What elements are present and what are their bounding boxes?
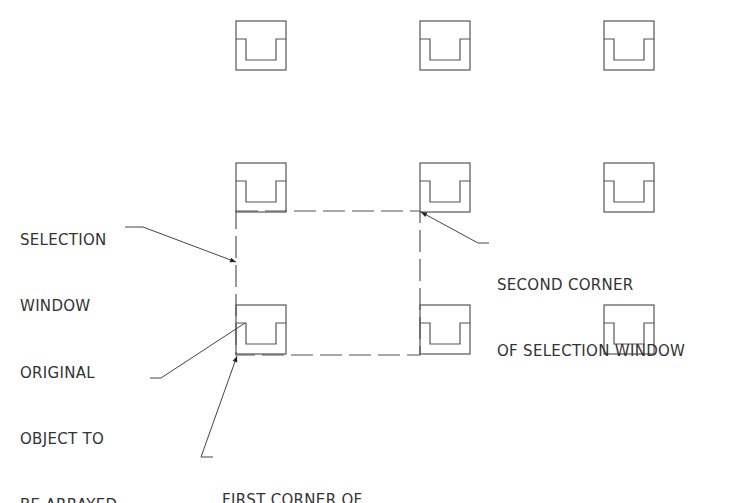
arrayed-object (236, 21, 286, 70)
label-line: WINDOW (20, 295, 107, 317)
arrayed-object (236, 163, 286, 212)
original-object-label: ORIGINAL OBJECT TO BE ARRAYED (20, 318, 117, 503)
selection-window-leader (125, 227, 236, 262)
label-line: FIRST CORNER OF (222, 489, 384, 503)
arrayed-object (604, 163, 654, 212)
second-corner-leader (421, 212, 489, 243)
label-line: OF SELECTION WINDOW (497, 340, 685, 362)
label-line: BE ARRAYED (20, 494, 117, 503)
first-corner-label: FIRST CORNER OF SELECTION WINDOW (222, 445, 384, 503)
arrayed-object (604, 21, 654, 70)
label-line: SECOND CORNER (497, 274, 685, 296)
label-line: ORIGINAL (20, 362, 117, 384)
label-line: OBJECT TO (20, 428, 117, 450)
arrayed-object (420, 305, 470, 354)
label-line: SELECTION (20, 229, 107, 251)
first-corner-leader (201, 356, 237, 457)
selection-window-rect (236, 211, 420, 355)
original-object (236, 305, 286, 354)
selection-window-label: SELECTION WINDOW (20, 185, 107, 339)
second-corner-label: SECOND CORNER OF SELECTION WINDOW (497, 230, 685, 384)
arrayed-object (420, 21, 470, 70)
original-object-leader (150, 323, 245, 378)
arrayed-object (420, 163, 470, 212)
